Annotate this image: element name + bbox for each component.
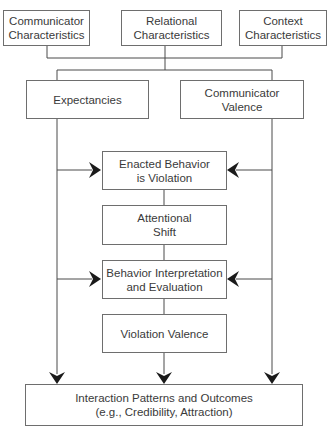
node-label: Valence: [222, 100, 263, 114]
node-expectancies: Expectancies: [26, 80, 149, 119]
node-communicator-characteristics: Communicator Characteristics: [3, 10, 90, 46]
node-interaction-patterns: Interaction Patterns and Outcomes (e.g.,…: [25, 384, 303, 426]
node-label: Violation Valence: [121, 327, 209, 341]
node-behavior-interpretation: Behavior Interpretation and Evaluation: [102, 260, 227, 299]
node-attentional-shift: Attentional Shift: [102, 205, 227, 245]
node-label: Characteristics: [245, 28, 321, 42]
node-label: Expectancies: [53, 93, 121, 107]
node-communicator-valence: Communicator Valence: [180, 80, 304, 119]
node-relational-characteristics: Relational Characteristics: [121, 10, 222, 46]
node-label: Enacted Behavior: [119, 157, 210, 171]
node-label: Behavior Interpretation: [106, 266, 222, 280]
node-violation-valence: Violation Valence: [102, 314, 227, 353]
node-label: Relational: [146, 14, 197, 28]
node-label: Communicator: [205, 86, 280, 100]
node-enacted-behavior: Enacted Behavior is Violation: [102, 151, 227, 190]
node-label: Context: [263, 14, 303, 28]
node-label: Interaction Patterns and Outcomes: [75, 391, 253, 405]
node-context-characteristics: Context Characteristics: [239, 10, 327, 46]
node-label: is Violation: [137, 171, 192, 185]
node-label: Communicator: [9, 14, 84, 28]
node-label: Attentional: [137, 211, 191, 225]
node-label: (e.g., Credibility, Attraction): [95, 405, 232, 419]
node-label: and Evaluation: [126, 280, 202, 294]
node-label: Characteristics: [133, 28, 209, 42]
node-label: Characteristics: [8, 28, 84, 42]
node-label: Shift: [153, 225, 176, 239]
